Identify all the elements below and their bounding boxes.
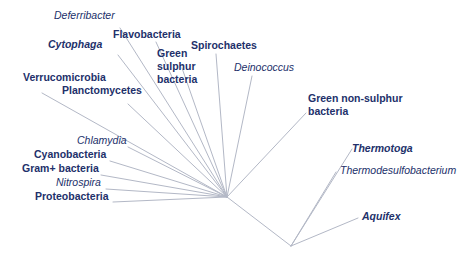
taxon-label-spirochaetes: Spirochaetes — [191, 39, 257, 51]
phylogenetic-tree-figure: Deferribacter Flavobacteria Cytophaga Sp… — [0, 0, 472, 262]
taxon-label-planctomycetes: Planctomycetes — [62, 84, 142, 96]
taxon-label-thermotoga: Thermotoga — [352, 142, 413, 154]
taxon-label-green-non-sulphur-bacteria-line2: bacteria — [308, 105, 348, 117]
branch-deinococcus — [227, 76, 252, 197]
taxon-label-chlamydia: Chlamydia — [77, 134, 127, 146]
taxon-label-gram-positive-bacteria: Gram+ bacteria — [22, 162, 99, 174]
taxon-label-deferribacter: Deferribacter — [54, 9, 115, 21]
taxon-label-deinococcus: Deinococcus — [234, 61, 294, 73]
taxon-label-aquifex: Aquifex — [362, 210, 401, 222]
taxon-label-cyanobacteria: Cyanobacteria — [34, 148, 106, 160]
branch-thermodesulfobacterium — [291, 172, 336, 246]
taxon-label-verrucomicrobia: Verrucomicrobia — [23, 71, 106, 83]
taxon-label-thermodesulfobacterium: Thermodesulfobacterium — [340, 164, 456, 176]
branch-internal-thermophile — [227, 197, 291, 246]
taxon-label-proteobacteria: Proteobacteria — [35, 190, 109, 202]
taxon-label-flavobacteria: Flavobacteria — [113, 28, 181, 40]
taxon-label-green-non-sulphur-bacteria-line1: Green non-sulphur — [308, 92, 403, 104]
taxon-label-green-sulphur-bacteria-line1: Green — [157, 47, 187, 59]
branch-cyanobacteria — [110, 161, 227, 197]
taxon-label-nitrospira: Nitrospira — [56, 176, 101, 188]
branch-nitrospira — [106, 189, 227, 197]
branch-green-non-sulphur-bacteria — [227, 113, 306, 197]
branch-proteobacteria — [113, 197, 227, 202]
taxon-label-cytophaga: Cytophaga — [48, 38, 102, 50]
taxon-label-green-sulphur-bacteria-line3: bacteria — [157, 73, 197, 85]
taxon-label-green-sulphur-bacteria-line2: sulphur — [157, 60, 196, 72]
branch-aquifex — [291, 218, 358, 246]
